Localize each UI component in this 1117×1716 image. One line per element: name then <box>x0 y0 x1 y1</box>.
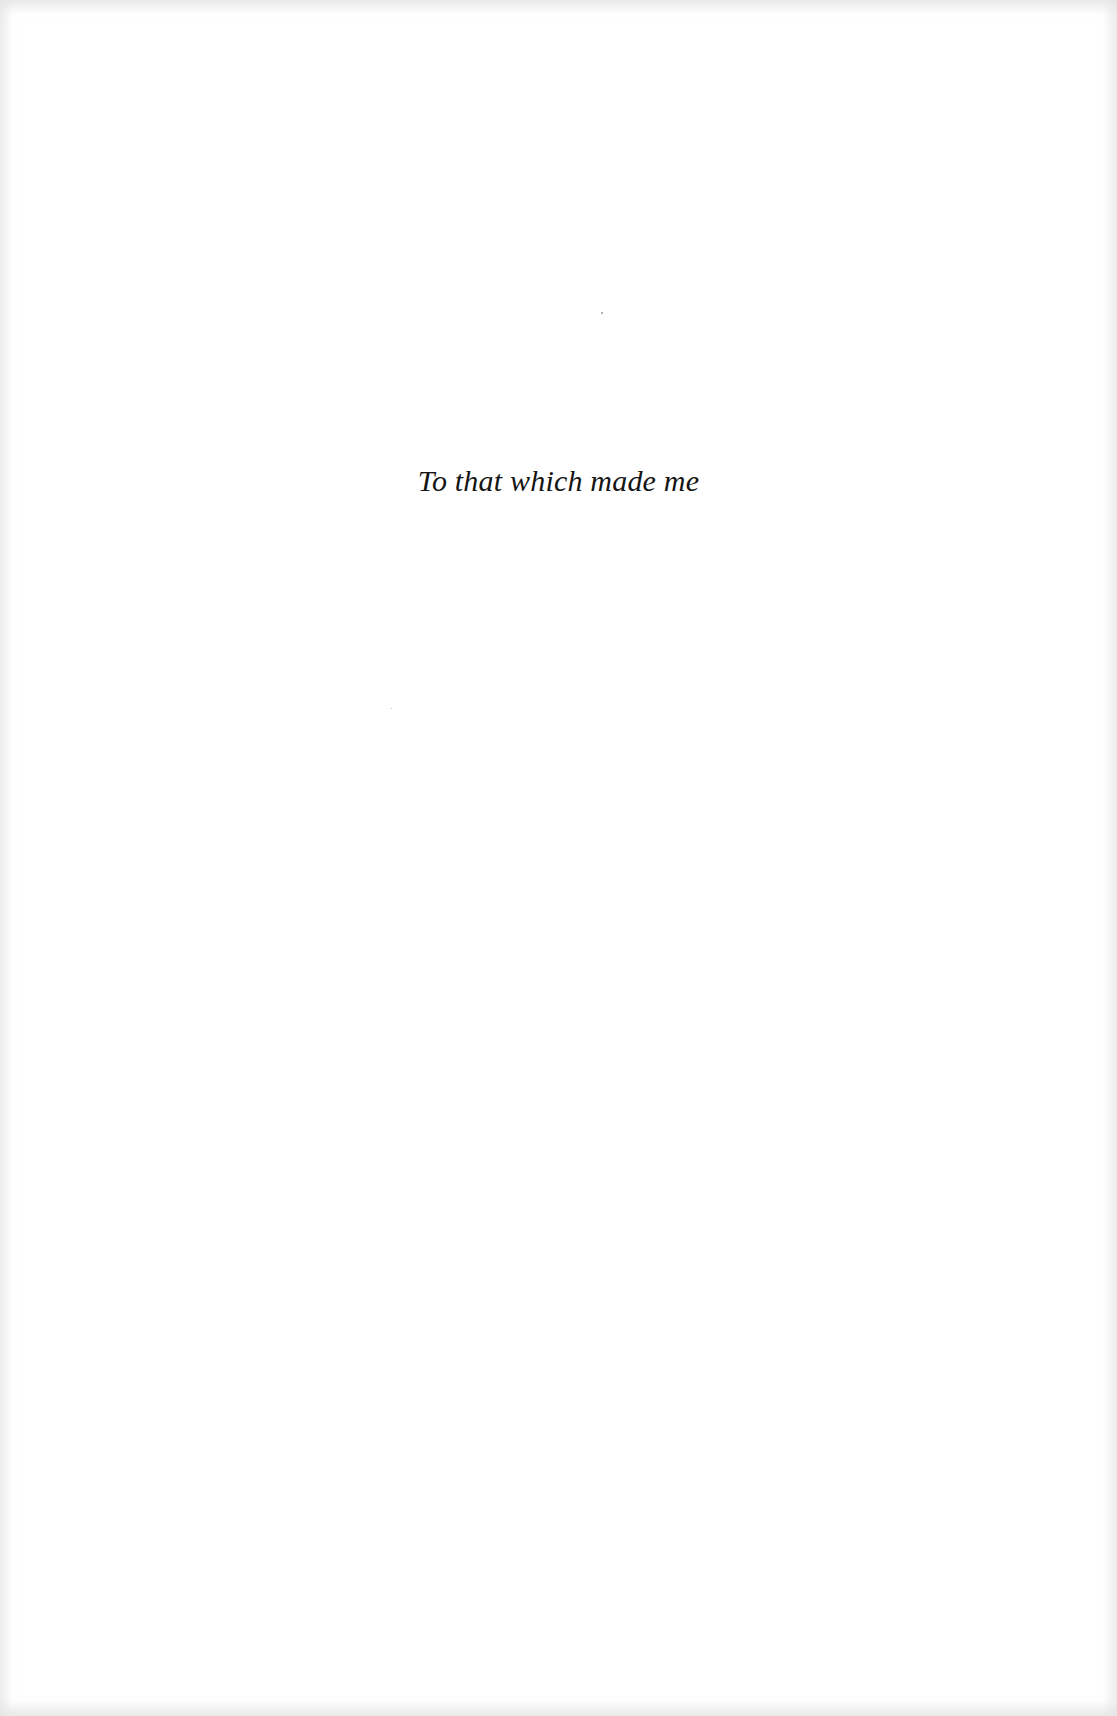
book-page: To that which made me <box>0 0 1117 1716</box>
scan-speck <box>391 708 392 709</box>
scan-edge-top <box>0 0 1117 14</box>
dedication-text: To that which made me <box>0 463 1117 499</box>
scan-edge-bottom <box>0 1700 1117 1716</box>
scan-speck <box>601 312 603 314</box>
scan-edge-left <box>0 0 12 1716</box>
scan-edge-right <box>1103 0 1117 1716</box>
